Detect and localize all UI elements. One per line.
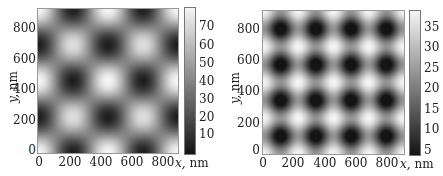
left-xtick-0: 0 [24,156,54,168]
left-xtick-600: 600 [117,156,147,168]
left-colorbar-gradient [185,8,195,154]
right-ytick-200: 200 [236,117,260,129]
right-heatmap-plot [262,10,405,155]
left-xtick-800: 800 [148,156,178,168]
right-ytick-800: 800 [236,23,260,35]
right-ctick-10: 10 [424,123,439,135]
left-ctick-10: 10 [199,128,214,140]
right-xtick-0: 0 [248,157,278,169]
right-ylabel: y, nm [228,72,242,104]
left-ctick-70: 70 [199,20,214,32]
right-ctick-20: 20 [424,82,439,94]
right-xtick-800: 800 [372,157,402,169]
left-ytick-600: 600 [12,53,36,65]
left-xlabel-unit: nm [186,156,209,170]
right-xlabel: x, nm [400,157,434,171]
left-ctick-60: 60 [199,39,214,51]
left-ctick-50: 50 [199,57,214,69]
right-ctick-30: 30 [424,41,439,53]
left-xlabel: x, nm [175,156,209,170]
right-ytick-600: 600 [236,54,260,66]
left-heatmap-plot [37,8,179,154]
left-colorbar [184,7,196,155]
right-heatmap-canvas [263,11,404,154]
left-heatmap-panel: 0 200 400 600 800 0 200 400 600 800 x, n… [0,0,220,176]
right-ctick-25: 25 [424,62,439,74]
left-ctick-20: 20 [199,111,214,123]
right-ctick-5: 5 [424,144,432,156]
right-xtick-200: 200 [278,157,308,169]
left-heatmap-canvas [38,9,178,153]
right-heatmap-panel: 0 200 400 600 800 0 200 400 600 800 x, n… [220,0,443,176]
right-xlabel-unit: nm [411,157,434,171]
right-xlabel-var: x, [400,157,411,171]
right-xtick-400: 400 [310,157,340,169]
right-ctick-35: 35 [424,21,439,33]
left-ctick-40: 40 [199,75,214,87]
right-colorbar-gradient [410,11,420,155]
left-ytick-0: 0 [12,144,36,156]
left-ylabel-unit: nm [6,71,20,94]
right-xtick-600: 600 [341,157,371,169]
left-ctick-30: 30 [199,93,214,105]
right-ylabel-unit: nm [228,72,242,95]
left-ylabel: y, nm [6,71,20,103]
left-ytick-800: 800 [12,22,36,34]
right-ctick-15: 15 [424,103,439,115]
right-ylabel-var: y, [228,95,242,104]
left-ylabel-var: y, [6,94,20,103]
right-ytick-0: 0 [236,144,260,156]
left-xtick-200: 200 [55,156,85,168]
right-colorbar [409,10,421,156]
left-ytick-200: 200 [12,114,36,126]
left-xlabel-var: x, [175,156,186,170]
left-xtick-400: 400 [86,156,116,168]
